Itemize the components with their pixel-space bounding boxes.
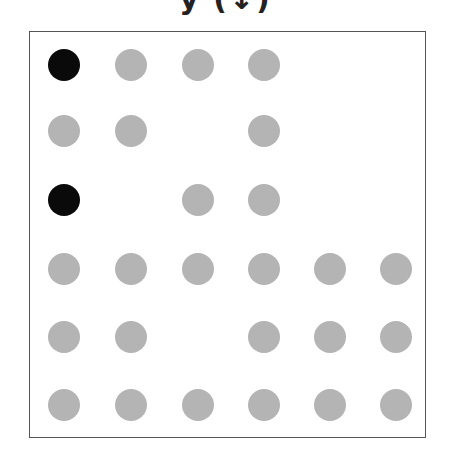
dot-highlighted [48, 184, 80, 216]
dot [248, 49, 280, 81]
dot [380, 389, 412, 421]
dot [380, 253, 412, 285]
dot [48, 389, 80, 421]
dot [248, 321, 280, 353]
dot-grid-frame [29, 31, 426, 438]
dot [182, 184, 214, 216]
dot [248, 184, 280, 216]
dot [115, 115, 147, 147]
dot [314, 321, 346, 353]
dot [48, 321, 80, 353]
dot [115, 253, 147, 285]
dot [182, 49, 214, 81]
dot [248, 389, 280, 421]
dot [182, 253, 214, 285]
dot [380, 321, 412, 353]
dot [314, 389, 346, 421]
dot [248, 115, 280, 147]
dot [115, 49, 147, 81]
dot [48, 115, 80, 147]
dot-highlighted [48, 49, 80, 81]
diagram-title: y (↓) [0, 0, 451, 14]
dot [115, 321, 147, 353]
dot [314, 253, 346, 285]
dot [115, 389, 147, 421]
dot [248, 253, 280, 285]
dot [48, 253, 80, 285]
dot [182, 389, 214, 421]
